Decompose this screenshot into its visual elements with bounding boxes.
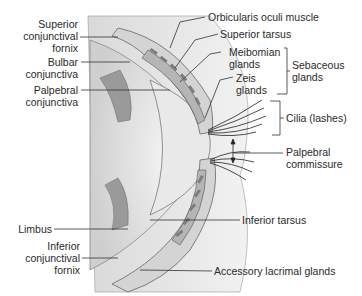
label-line: commissure	[286, 158, 343, 170]
label-line: glands	[236, 84, 267, 96]
label-line: Cilia (lashes)	[286, 112, 347, 124]
label-palpebral-commissure: Palpebral commissure	[286, 146, 343, 170]
label-line: Meibomian	[229, 46, 280, 58]
label-line: conjunctiva	[6, 96, 78, 108]
label-superior-conjunctival-fornix: Superior conjunctival fornix	[6, 18, 78, 54]
label-inferior-conjunctival-fornix: Inferior conjunctival fornix	[6, 240, 80, 276]
label-line: conjunctival	[6, 30, 78, 42]
label-zeis-glands: Zeis glands	[236, 72, 267, 96]
label-line: Inferior	[6, 240, 80, 252]
label-orbicularis-oculi-muscle: Orbicularis oculi muscle	[208, 11, 319, 23]
label-line: fornix	[6, 42, 78, 54]
label-superior-tarsus: Superior tarsus	[220, 28, 291, 40]
label-line: Palpebral	[6, 84, 78, 96]
label-sebaceous-glands: Sebaceous glands	[292, 59, 345, 83]
label-line: conjunctiva	[6, 68, 78, 80]
label-line: conjunctival	[6, 252, 80, 264]
label-line: glands	[292, 71, 345, 83]
label-line: Superior	[6, 18, 78, 30]
label-line: Superior tarsus	[220, 28, 291, 40]
label-inferior-tarsus: Inferior tarsus	[242, 214, 306, 226]
label-meibomian-glands: Meibomian glands	[229, 46, 280, 70]
label-line: Accessory lacrimal glands	[214, 265, 335, 277]
label-line: fornix	[6, 264, 80, 276]
label-accessory-lacrimal-glands: Accessory lacrimal glands	[214, 265, 335, 277]
label-palpebral-conjunctiva: Palpebral conjunctiva	[6, 84, 78, 108]
label-cilia: Cilia (lashes)	[286, 112, 347, 124]
label-limbus: Limbus	[6, 223, 52, 235]
label-line: glands	[229, 58, 280, 70]
label-line: Zeis	[236, 72, 267, 84]
label-line: Sebaceous	[292, 59, 345, 71]
label-line: Limbus	[6, 223, 52, 235]
label-line: Palpebral	[286, 146, 343, 158]
label-line: Orbicularis oculi muscle	[208, 11, 319, 23]
label-line: Bulbar	[6, 56, 78, 68]
label-bulbar-conjunctiva: Bulbar conjunctiva	[6, 56, 78, 80]
label-line: Inferior tarsus	[242, 214, 306, 226]
